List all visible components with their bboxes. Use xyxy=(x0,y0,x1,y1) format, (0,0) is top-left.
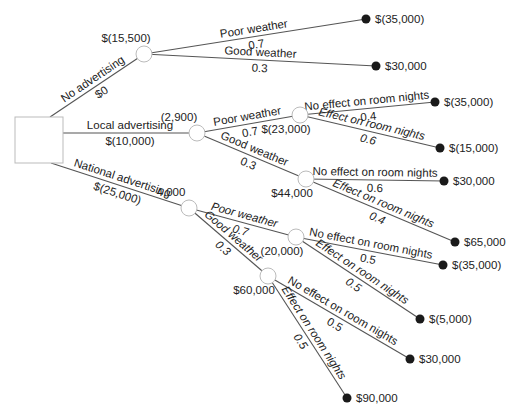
alternative-edge-no_adv xyxy=(50,58,137,117)
payoff-value: $30,000 xyxy=(453,175,495,187)
weather-branch-prob: 0.3 xyxy=(213,238,233,258)
chance-node xyxy=(189,125,205,141)
payoff-value: $(15,000) xyxy=(449,142,498,154)
outcome-branch-prob: 0.6 xyxy=(359,132,378,147)
payoff-value: $65,000 xyxy=(464,236,506,248)
weather-branch-label: Good weather xyxy=(224,44,297,60)
outcome-edge xyxy=(306,179,444,181)
payoff-value: $(35,000) xyxy=(375,13,424,25)
expected-value: (2,900) xyxy=(161,111,198,123)
expected-value: (20,000) xyxy=(261,245,304,257)
terminal-node xyxy=(343,394,352,403)
outcome-branch-prob: 0.5 xyxy=(344,275,364,294)
terminal-node xyxy=(372,62,381,71)
outcome-branch-prob: 0.5 xyxy=(325,315,345,333)
payoff-value: $(35,000) xyxy=(452,259,501,271)
chance-node xyxy=(136,46,152,62)
outcome-branch-prob: 0.5 xyxy=(291,331,310,351)
terminal-node xyxy=(451,238,460,247)
outcome-branch-label: No effect on room nights xyxy=(312,165,437,179)
terminal-node xyxy=(406,355,415,364)
terminal-node xyxy=(436,144,445,153)
alternative-local_adv-prob: $(10,000) xyxy=(105,135,154,147)
terminal-node xyxy=(440,177,449,186)
decision-tree-diagram: No advertising$0Local advertising$(10,00… xyxy=(0,0,506,417)
payoff-value: $90,000 xyxy=(356,392,398,404)
chance-node xyxy=(181,200,197,216)
terminal-node xyxy=(431,98,440,107)
payoff-value: $(5,000) xyxy=(429,313,472,325)
chance-node xyxy=(292,107,308,123)
payoff-value: $(35,000) xyxy=(444,96,493,108)
expected-value: $(23,000) xyxy=(261,123,310,135)
alternative-no_adv-label: No advertising xyxy=(59,53,127,104)
payoff-value: $30,000 xyxy=(419,353,461,365)
decision-node xyxy=(15,117,63,163)
terminal-node xyxy=(416,315,425,324)
chance-node xyxy=(260,268,276,284)
weather-branch-prob: 0.3 xyxy=(251,62,268,75)
expected-value: $60,000 xyxy=(233,284,275,296)
expected-value: 4,000 xyxy=(157,186,186,198)
expected-value: $(15,500) xyxy=(101,32,150,44)
chance-node xyxy=(298,171,314,187)
terminal-node xyxy=(362,15,371,24)
expected-value: $44,000 xyxy=(271,187,313,199)
payoff-value: $30,000 xyxy=(385,60,427,72)
decision-tree-canvas: No advertising$0Local advertising$(10,00… xyxy=(0,0,506,417)
terminal-node xyxy=(439,261,448,270)
chance-node xyxy=(288,229,304,245)
